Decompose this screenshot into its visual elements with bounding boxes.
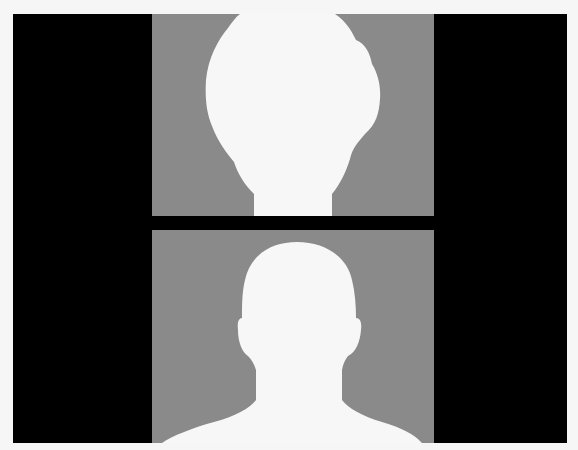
head-silhouette-top — [152, 14, 434, 216]
head-shoulders-silhouette-bottom — [152, 230, 434, 443]
bottom-silhouette-panel — [152, 230, 434, 443]
top-silhouette-panel — [152, 14, 434, 216]
